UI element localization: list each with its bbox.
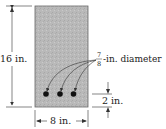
cover-label: 2 in. [102,95,123,106]
rebar-1 [43,91,49,97]
height-label: 16 in. [0,53,27,64]
beam-diagram: 16 in. 8 in. 2 in. 7 8 -in. diameter [0,0,166,129]
rebar-2 [57,91,63,97]
rebar-3 [71,91,77,97]
fraction-denominator: 8 [97,60,101,68]
diameter-suffix: -in. diameter [103,54,162,64]
bar-diameter-label: 7 8 -in. diameter [96,51,162,68]
width-label: 8 in. [50,115,71,126]
fraction-numerator: 7 [97,51,101,59]
